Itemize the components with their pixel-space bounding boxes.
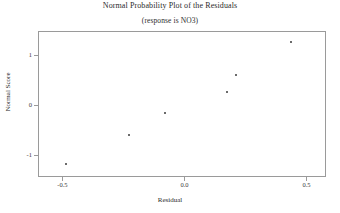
x-axis-tick-label: -0.5	[47, 181, 77, 188]
data-point	[164, 112, 166, 114]
chart-subtitle: (response is NO3)	[0, 16, 340, 25]
data-point	[235, 74, 237, 76]
y-axis-tick	[34, 55, 38, 56]
plot-area	[38, 31, 326, 177]
data-point	[65, 163, 67, 165]
x-axis-label: Residual	[0, 196, 340, 204]
x-axis-tick-label: 0.0	[169, 181, 199, 188]
y-axis-tick	[34, 155, 38, 156]
y-axis-tick-label: 1	[16, 51, 32, 58]
y-axis-label: Normal Score	[4, 62, 12, 122]
data-point	[128, 134, 130, 136]
chart-title: Normal Probability Plot of the Residuals	[0, 1, 340, 10]
y-axis-tick-label: -1	[16, 151, 32, 158]
data-point	[290, 41, 292, 43]
normal-probability-plot: Normal Probability Plot of the Residuals…	[0, 0, 340, 213]
x-axis-tick-label: 0.5	[291, 181, 321, 188]
y-axis-tick-label: 0	[16, 101, 32, 108]
y-axis-tick	[34, 105, 38, 106]
data-point	[226, 91, 228, 93]
